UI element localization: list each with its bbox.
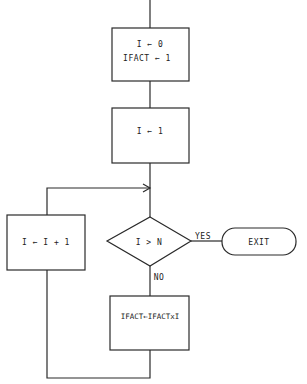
decision-label: I > N <box>136 238 163 247</box>
compute-box-shape <box>110 296 189 350</box>
yes-label: YES <box>195 232 211 241</box>
exit-label: EXIT <box>248 238 269 247</box>
init-line2: IFACT ← 1 <box>123 54 171 63</box>
loop-back-connector <box>47 188 150 215</box>
set-i-box-shape <box>112 108 189 163</box>
bottom-loop-connector <box>47 270 150 378</box>
init-line1: I ← 0 <box>137 40 164 49</box>
no-label: NO <box>154 273 165 282</box>
set-i-label: I ← 1 <box>137 127 164 136</box>
compute-label: IFACT←IFACTxI <box>121 312 180 321</box>
increment-label: I ← I + 1 <box>22 238 70 247</box>
